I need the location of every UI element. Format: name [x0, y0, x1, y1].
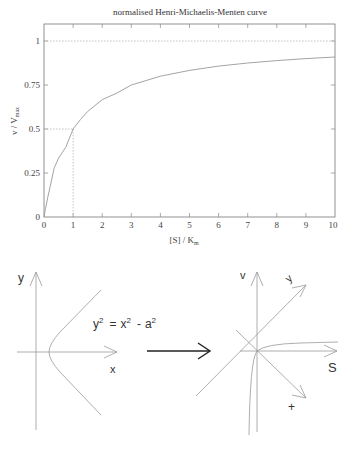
chart-title: normalised Henri-Michaelis-Menten curve [113, 7, 267, 17]
svg-text:6: 6 [216, 220, 221, 230]
plot-frame [44, 24, 335, 217]
s-axis-label: S [328, 360, 337, 375]
x-axis-label-left: x [110, 363, 116, 375]
rotated-axes-diagram [196, 272, 338, 435]
figure: normalised Henri-Michaelis-Menten curve … [0, 0, 357, 449]
rotated-x-label: + [288, 400, 295, 414]
svg-text:7: 7 [245, 220, 250, 230]
svg-text:5: 5 [187, 220, 192, 230]
x-tick-labels: 0 1 2 3 4 5 6 7 8 9 10 [42, 220, 338, 230]
y-axis-label-left: y [18, 271, 24, 285]
transform-arrow-icon [147, 343, 210, 359]
rotated-x-axis [236, 330, 306, 398]
hyperbola-diagram [17, 272, 117, 430]
svg-text:0.25: 0.25 [24, 168, 40, 178]
svg-text:8: 8 [275, 220, 280, 230]
y-axis-label: v / Vmax [9, 107, 20, 135]
svg-text:1: 1 [71, 220, 76, 230]
svg-text:0.5: 0.5 [29, 124, 41, 134]
svg-text:0.75: 0.75 [24, 80, 40, 90]
svg-text:3: 3 [129, 220, 134, 230]
x-ticks [73, 24, 306, 217]
svg-text:2: 2 [100, 220, 105, 230]
rotated-y-label: y [283, 271, 295, 284]
v-axis-label: v [240, 269, 246, 281]
svg-text:10: 10 [329, 220, 339, 230]
hyperbola-curve [49, 290, 101, 415]
mm-curve [44, 57, 335, 217]
hyperbola-equation: y2=x2-a2 [93, 316, 157, 331]
y-ticks [44, 41, 335, 173]
x-axis-label: [S] / Km [169, 235, 199, 246]
svg-text:1: 1 [36, 36, 41, 46]
y-tick-labels: 0 0.25 0.5 0.75 1 [24, 36, 40, 222]
mm-chart: normalised Henri-Michaelis-Menten curve … [9, 7, 338, 246]
svg-text:4: 4 [158, 220, 163, 230]
svg-text:0: 0 [42, 220, 47, 230]
svg-text:0: 0 [36, 212, 41, 222]
svg-text:9: 9 [304, 220, 309, 230]
